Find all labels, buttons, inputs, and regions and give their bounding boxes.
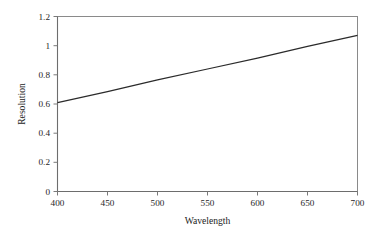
y-tick-label-1: 1: [45, 41, 50, 51]
y-tick-label-0-4: 0.4: [39, 128, 51, 138]
line-chart: 0 0.2 0.4 0.6 0.8 1 1.2 400 450 500 550 …: [0, 0, 390, 233]
x-tick-label-600: 600: [251, 198, 265, 208]
y-tick-label-0: 0: [45, 187, 50, 197]
x-tick-label-500: 500: [151, 198, 165, 208]
y-axis-title: Resolution: [16, 83, 27, 125]
x-axis-title: Wavelength: [185, 215, 231, 226]
y-tick-label-0-6: 0.6: [39, 99, 51, 109]
x-tick-label-450: 450: [101, 198, 115, 208]
x-tick-label-650: 650: [301, 198, 315, 208]
x-tick-label-550: 550: [201, 198, 215, 208]
x-tick-label-400: 400: [51, 198, 65, 208]
x-tick-label-700: 700: [351, 198, 365, 208]
y-tick-label-0-8: 0.8: [39, 70, 51, 80]
y-tick-label-1-2: 1.2: [39, 12, 51, 22]
chart-figure: 0 0.2 0.4 0.6 0.8 1 1.2 400 450 500 550 …: [0, 0, 390, 233]
y-tick-label-0-2: 0.2: [39, 157, 51, 167]
